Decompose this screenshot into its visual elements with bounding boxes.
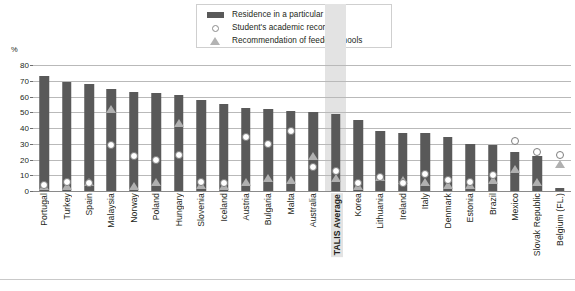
marker-feeder-schools[interactable] bbox=[555, 160, 565, 168]
x-axis-label-australia: Australia bbox=[308, 193, 318, 227]
chart-column[interactable] bbox=[212, 65, 234, 191]
marker-academic-record[interactable] bbox=[511, 137, 519, 145]
chart-column[interactable] bbox=[481, 65, 503, 191]
marker-academic-record[interactable] bbox=[489, 171, 497, 179]
x-axis-label-malta: Malta bbox=[286, 193, 296, 215]
x-axis-label-iceland: Iceland bbox=[219, 193, 229, 221]
chart-column[interactable] bbox=[123, 65, 145, 191]
marker-feeder-schools[interactable] bbox=[420, 178, 430, 186]
legend-item-residence: Residence in a particular area bbox=[204, 9, 385, 22]
marker-academic-record[interactable] bbox=[152, 156, 160, 164]
bar-residence[interactable] bbox=[174, 95, 184, 191]
marker-feeder-schools[interactable] bbox=[129, 182, 139, 190]
triangle-filled-icon bbox=[204, 36, 226, 47]
marker-feeder-schools[interactable] bbox=[241, 178, 251, 186]
marker-academic-record[interactable] bbox=[175, 151, 183, 159]
bar-residence[interactable] bbox=[533, 156, 543, 191]
chart-column[interactable] bbox=[280, 65, 302, 191]
x-axis-label-brazil: Brazil bbox=[488, 193, 498, 215]
x-axis-label-talis-average: TALIS Average bbox=[331, 193, 343, 257]
chart-column[interactable] bbox=[392, 65, 414, 191]
marker-feeder-schools[interactable] bbox=[308, 152, 318, 160]
marker-academic-record[interactable] bbox=[533, 148, 541, 156]
bar-residence[interactable] bbox=[488, 145, 498, 191]
chart-column[interactable] bbox=[145, 65, 167, 191]
marker-academic-record[interactable] bbox=[220, 179, 228, 187]
x-axis-label-poland: Poland bbox=[151, 193, 161, 220]
marker-academic-record[interactable] bbox=[332, 167, 340, 175]
chart-column[interactable] bbox=[302, 65, 324, 191]
marker-feeder-schools[interactable] bbox=[263, 174, 273, 182]
x-axis-label-hungary: Hungary bbox=[174, 193, 184, 226]
x-axis-label-lithuania: Lithuania bbox=[375, 193, 385, 229]
chart-column[interactable] bbox=[504, 65, 526, 191]
legend-item-feeder-schools: Recommendation of feeder schools bbox=[204, 35, 385, 48]
chart-column[interactable] bbox=[414, 65, 436, 191]
y-axis-tick-mark bbox=[30, 191, 33, 192]
chart-column[interactable] bbox=[168, 65, 190, 191]
bar-swatch-icon bbox=[204, 10, 226, 21]
x-axis-label-denmark: Denmark bbox=[443, 193, 453, 229]
chart-column[interactable] bbox=[526, 65, 548, 191]
y-axis-tick-label: 40 bbox=[20, 124, 29, 133]
legend-item-academic-record: Student's academic record bbox=[204, 22, 385, 35]
chart-column[interactable] bbox=[324, 65, 346, 191]
y-axis-tick-label: 50 bbox=[20, 108, 29, 117]
x-axis-label-turkey: Turkey bbox=[62, 193, 72, 220]
chart-column[interactable] bbox=[347, 65, 369, 191]
marker-feeder-schools[interactable] bbox=[532, 178, 542, 186]
marker-academic-record[interactable] bbox=[444, 176, 452, 184]
chart-column[interactable] bbox=[459, 65, 481, 191]
x-axis-label-belgium-fl: Belgium (FL.) bbox=[555, 193, 565, 246]
x-axis-label-korea: Korea bbox=[353, 193, 363, 216]
marker-feeder-schools[interactable] bbox=[331, 174, 341, 182]
chart-legend: Residence in a particular area Student's… bbox=[196, 4, 392, 48]
marker-academic-record[interactable] bbox=[287, 127, 295, 135]
chart-column[interactable] bbox=[369, 65, 391, 191]
marker-feeder-schools[interactable] bbox=[510, 165, 520, 173]
x-axis-label-mexico: Mexico bbox=[510, 193, 520, 221]
bar-residence[interactable] bbox=[219, 104, 229, 191]
marker-academic-record[interactable] bbox=[399, 179, 407, 187]
chart-column[interactable] bbox=[549, 65, 571, 191]
bar-residence[interactable] bbox=[376, 131, 386, 191]
bar-residence[interactable] bbox=[84, 84, 94, 191]
bar-residence[interactable] bbox=[107, 89, 117, 191]
bar-residence[interactable] bbox=[129, 92, 139, 191]
bar-residence[interactable] bbox=[62, 82, 72, 191]
chart-column[interactable] bbox=[78, 65, 100, 191]
chart-column[interactable] bbox=[100, 65, 122, 191]
chart-column[interactable] bbox=[235, 65, 257, 191]
x-axis-label-estonia: Estonia bbox=[465, 193, 475, 222]
marker-feeder-schools[interactable] bbox=[151, 178, 161, 186]
circle-open-icon bbox=[204, 23, 226, 34]
y-axis-tick-label: 10 bbox=[20, 171, 29, 180]
chart-column[interactable] bbox=[257, 65, 279, 191]
chart-column[interactable] bbox=[437, 65, 459, 191]
marker-feeder-schools[interactable] bbox=[174, 119, 184, 127]
marker-feeder-schools[interactable] bbox=[106, 105, 116, 113]
x-axis-labels: PortugalTurkeySpainMalaysiaNorwayPolandH… bbox=[33, 193, 571, 275]
marker-academic-record[interactable] bbox=[556, 151, 564, 159]
x-axis-label-norway: Norway bbox=[129, 193, 139, 223]
x-axis-label-bulgaria: Bulgaria bbox=[263, 193, 273, 225]
bar-residence[interactable] bbox=[152, 93, 162, 191]
chart-column[interactable] bbox=[190, 65, 212, 191]
axis-unit-label: % bbox=[11, 45, 18, 54]
marker-academic-record[interactable] bbox=[466, 178, 474, 186]
marker-academic-record[interactable] bbox=[197, 178, 205, 186]
x-axis-label-malaysia: Malaysia bbox=[106, 193, 116, 228]
marker-feeder-schools[interactable] bbox=[286, 176, 296, 184]
bar-residence[interactable] bbox=[555, 188, 565, 191]
marker-academic-record[interactable] bbox=[63, 178, 71, 186]
chart-column[interactable] bbox=[55, 65, 77, 191]
legend-label: Student's academic record bbox=[232, 23, 330, 33]
chart-column[interactable] bbox=[33, 65, 55, 191]
marker-academic-record[interactable] bbox=[421, 170, 429, 178]
x-axis-label-italy: Italy bbox=[420, 193, 430, 209]
y-axis-tick-label: 60 bbox=[20, 92, 29, 101]
x-axis-label-spain: Spain bbox=[84, 193, 94, 215]
bar-residence[interactable] bbox=[39, 76, 49, 191]
y-axis-tick-label: 30 bbox=[20, 139, 29, 148]
marker-academic-record[interactable] bbox=[40, 181, 48, 189]
